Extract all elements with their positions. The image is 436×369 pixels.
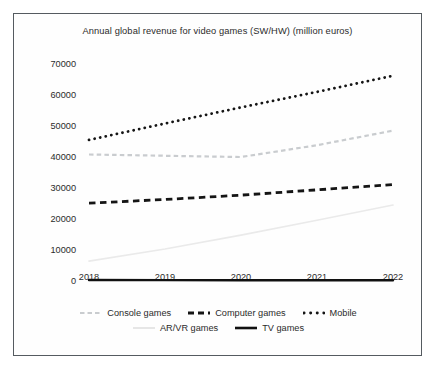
- series-line-computer-games: [89, 185, 393, 204]
- legend-swatch-console-games-icon: [80, 308, 102, 318]
- legend-swatch-arvr-games-icon: [133, 323, 155, 333]
- series-line-mobile: [89, 76, 393, 140]
- legend-row-2: AR/VR games TV games: [14, 323, 423, 333]
- legend-swatch-computer-games-icon: [188, 308, 210, 318]
- legend-item-computer-games[interactable]: Computer games: [188, 308, 285, 318]
- legend-item-arvr-games[interactable]: AR/VR games: [133, 323, 218, 333]
- legend-swatch-mobile-icon: [303, 308, 325, 318]
- series-line-ar-vr-games: [89, 205, 393, 261]
- legend-label-mobile: Mobile: [330, 308, 357, 318]
- legend-swatch-tv-games-icon: [235, 323, 257, 333]
- legend-label-console-games: Console games: [107, 308, 171, 318]
- legend-label-tv-games: TV games: [262, 323, 304, 333]
- chart-figure-frame: Annual global revenue for video games (S…: [13, 13, 422, 356]
- legend-row-1: Console games Computer games Mobile: [14, 308, 423, 318]
- legend-item-mobile[interactable]: Mobile: [303, 308, 357, 318]
- legend-item-tv-games[interactable]: TV games: [235, 323, 304, 333]
- legend-label-arvr-games: AR/VR games: [160, 323, 218, 333]
- legend-item-console-games[interactable]: Console games: [80, 308, 171, 318]
- series-line-console-games: [89, 131, 393, 157]
- legend-label-computer-games: Computer games: [215, 308, 285, 318]
- chart-legend: Console games Computer games Mobile: [14, 303, 423, 333]
- series-group: [89, 76, 393, 280]
